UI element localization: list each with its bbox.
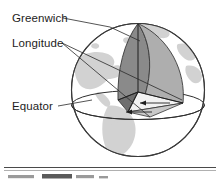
label-greenwich: Greenwich	[12, 12, 68, 24]
label-equator: Equator	[12, 100, 53, 112]
caption-text-fragment	[8, 174, 108, 179]
caption-frag-block-4	[99, 176, 108, 178]
label-longitude: Longitude	[12, 37, 63, 49]
caption-frag-block-2	[42, 174, 72, 179]
caption-frag-block-1	[8, 175, 34, 178]
figure-container: Greenwich Longitude Equator	[0, 0, 220, 179]
caption-frag-block-3	[76, 175, 94, 178]
globe-longitude-diagram: Greenwich Longitude Equator	[0, 0, 220, 179]
caption-rule-group	[4, 168, 216, 171]
